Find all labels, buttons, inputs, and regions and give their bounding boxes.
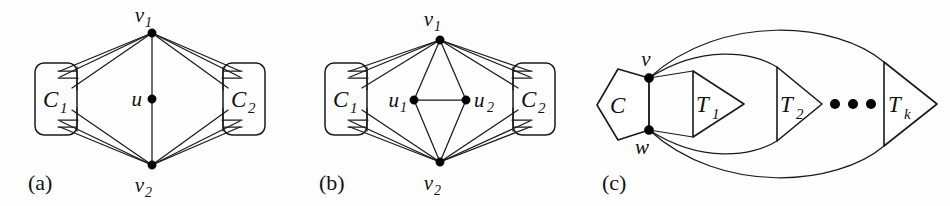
label-tk-sub: k (904, 106, 911, 122)
panel-b: v 1 u 1 u 2 v 2 C 1 C 2 (b) (295, 0, 595, 206)
label-w: w (635, 135, 649, 159)
label-v: v (641, 47, 651, 71)
panel-label-b: (b) (319, 170, 345, 195)
label-v1: v (135, 3, 145, 27)
ellipsis-dots (830, 99, 876, 109)
label-c1-sub: 1 (350, 100, 358, 116)
panel-label-a: (a) (28, 170, 52, 195)
label-c1: C (43, 87, 59, 112)
vertex-v2 (436, 158, 444, 166)
vertex-u (148, 95, 156, 103)
label-c2-sub: 2 (248, 100, 256, 116)
label-v2: v (135, 173, 145, 197)
vertex-w (644, 125, 653, 134)
panel-a: v 1 u v 2 C 1 C 2 (a) (0, 0, 300, 206)
label-u2: u (474, 88, 485, 112)
label-c1: C (333, 87, 349, 112)
arc-v-tk (649, 30, 884, 78)
label-u1-sub: 1 (400, 100, 407, 115)
label-t2-sub: 2 (796, 106, 804, 122)
vertex-u2 (462, 96, 470, 104)
vertex-u1 (410, 96, 418, 104)
panel-label-c: (c) (602, 170, 626, 195)
arc-w-tk (649, 130, 884, 178)
label-c2: C (521, 87, 537, 112)
vertex-v1 (148, 29, 156, 37)
label-v1: v (424, 7, 434, 31)
vertex-v2 (148, 161, 156, 169)
label-v1-sub: 1 (434, 19, 441, 34)
label-v2-sub: 2 (434, 183, 441, 198)
label-t1: T (696, 92, 711, 117)
label-c1-sub: 1 (60, 100, 68, 116)
panel-c: v w C T 1 T 2 T k (c) (592, 0, 950, 206)
vertex-v (644, 73, 653, 82)
label-t2: T (780, 92, 795, 117)
label-c: C (610, 93, 626, 118)
label-c2: C (231, 87, 247, 112)
label-v1-sub: 1 (145, 15, 152, 30)
label-u: u (132, 87, 143, 111)
diamond-v1-u1-v2-u2 (414, 40, 466, 162)
label-tk: T (888, 92, 903, 117)
figure-root: v 1 u v 2 C 1 C 2 (a) (0, 0, 950, 206)
label-u2-sub: 2 (487, 100, 494, 115)
label-c2-sub: 2 (538, 100, 546, 116)
vertex-v1 (436, 36, 444, 44)
label-t1-sub: 1 (712, 106, 720, 122)
label-v2-sub: 2 (145, 185, 152, 200)
label-v2: v (424, 171, 434, 195)
label-u1: u (389, 88, 400, 112)
